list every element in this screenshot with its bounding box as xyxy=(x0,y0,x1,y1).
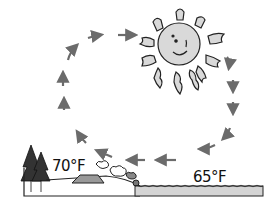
trees-icon xyxy=(21,145,50,192)
water-temperature-label: 65°F xyxy=(193,168,226,186)
sun-icon xyxy=(140,9,224,94)
diagram-canvas xyxy=(0,0,268,208)
air-circulation-arrows-icon xyxy=(63,35,233,160)
convection-diagram: 70°F 65°F xyxy=(0,0,268,208)
water-icon xyxy=(135,185,263,196)
land-temperature-label: 70°F xyxy=(52,157,85,175)
tent-icon xyxy=(72,175,104,183)
